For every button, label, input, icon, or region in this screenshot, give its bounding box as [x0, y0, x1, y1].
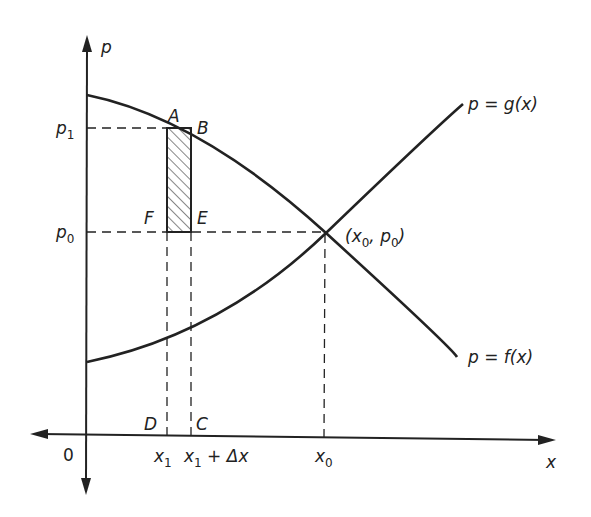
point-B-label: B	[197, 118, 209, 138]
supply-curve-label: p = g(x)	[467, 94, 538, 114]
guide-lines	[87, 128, 326, 437]
x1-tick-label: x1	[153, 446, 172, 470]
equilibrium-label: (x0, p0)	[345, 226, 405, 250]
point-D-label: D	[144, 414, 157, 434]
p1-tick-label: p1	[55, 118, 74, 142]
point-C-label: C	[196, 414, 208, 434]
p0-tick-label: p0	[55, 222, 74, 246]
point-E-label: E	[197, 208, 208, 228]
y-axis-down-arrow-icon	[81, 478, 91, 495]
y-axis-up-arrow-icon	[82, 35, 92, 52]
x-axis	[40, 434, 546, 440]
x0-guide	[324, 234, 325, 437]
y-axis	[86, 44, 87, 486]
origin-label: 0	[63, 445, 74, 465]
x0-tick-label: x0	[314, 446, 333, 470]
x1-plus-dx-tick-label: x1 + Δx	[183, 446, 249, 470]
x-axis-left-arrow-icon	[30, 429, 48, 439]
point-F-label: F	[144, 208, 154, 228]
supply-demand-diagram: p x 0 p = g(x) p = f(x) (x0, p0) p1 p0 x…	[0, 0, 591, 517]
hatched-strip-ABEF	[167, 128, 191, 232]
y-axis-label: p	[100, 37, 112, 57]
point-A-label: A	[167, 106, 180, 126]
x-axis-label: x	[545, 452, 557, 472]
demand-curve-label: p = f(x)	[467, 347, 533, 367]
x-axis-right-arrow-icon	[538, 435, 556, 445]
diagram-canvas: p x 0 p = g(x) p = f(x) (x0, p0) p1 p0 x…	[0, 0, 591, 517]
supply-curve-g	[87, 104, 463, 362]
